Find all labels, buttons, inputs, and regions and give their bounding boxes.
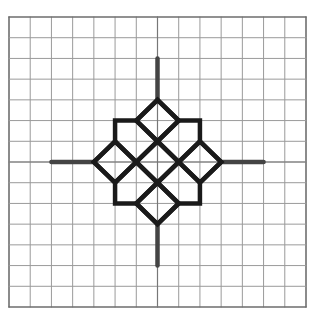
grid-figure — [0, 0, 312, 312]
